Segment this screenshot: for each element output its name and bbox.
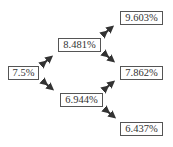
node-downdown-2: 6.437% [120, 122, 163, 136]
arrow-down-downdown [107, 111, 113, 116]
node-upup-2: 9.603% [120, 11, 163, 25]
node-down-1: 6.944% [60, 93, 103, 107]
arrow-root-up [44, 58, 50, 63]
arrow-root-down [45, 83, 51, 88]
node-up-1: 8.481% [58, 38, 101, 52]
node-updown-2: 7.862% [120, 66, 163, 80]
arrow-down-updown [106, 83, 112, 88]
arrow-up-updown [106, 55, 112, 60]
node-root: 7.5% [8, 66, 39, 80]
arrow-up-upup [105, 28, 111, 33]
